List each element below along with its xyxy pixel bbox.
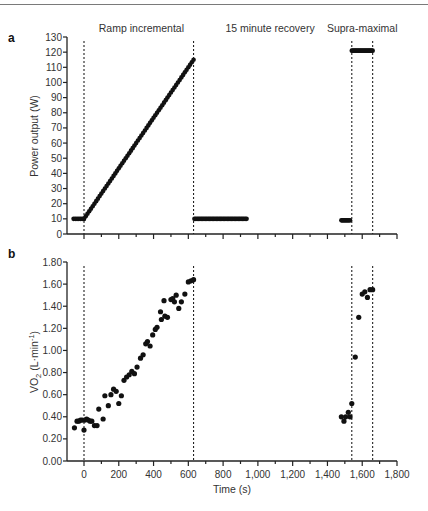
y-tick-label-b: 1.20 xyxy=(43,323,63,334)
x-tick-label-b: 200 xyxy=(110,469,127,480)
y-tick-label-a: 120 xyxy=(45,47,62,58)
data-point-vo2 xyxy=(72,425,77,430)
panel-b-letter: b xyxy=(8,247,15,261)
phase-label-supra: Supra-maximal xyxy=(327,22,398,34)
data-point-vo2 xyxy=(114,389,119,394)
data-point-vo2 xyxy=(81,427,86,432)
data-point-vo2 xyxy=(108,392,113,397)
data-point-vo2 xyxy=(134,364,139,369)
y-tick-label-a: 100 xyxy=(45,77,62,88)
data-point-vo2 xyxy=(102,393,107,398)
data-point-vo2 xyxy=(346,410,351,415)
y-tick-label-b: 1.00 xyxy=(43,345,63,356)
data-point-vo2 xyxy=(94,423,99,428)
y-tick-label-a: 80 xyxy=(51,107,63,118)
data-point-vo2 xyxy=(349,401,354,406)
y-tick-label-b: 0.80 xyxy=(43,367,63,378)
data-point-recovery xyxy=(244,217,249,222)
data-point-vo2 xyxy=(96,406,101,411)
data-point-vo2 xyxy=(182,291,187,296)
data-point-vo2 xyxy=(370,287,375,292)
data-point-vo2 xyxy=(174,293,179,298)
data-point-vo2 xyxy=(150,332,155,337)
y-tick-label-b: 0.40 xyxy=(43,411,63,422)
data-point-vo2 xyxy=(119,393,124,398)
y-tick-label-a: 20 xyxy=(51,198,63,209)
y-tick-label-a: 50 xyxy=(51,153,63,164)
data-point-vo2 xyxy=(116,401,121,406)
y-axis-title-b: VO2 (L·min-1) xyxy=(27,331,43,393)
data-point-vo2 xyxy=(158,309,163,314)
phase-label-ramp: Ramp incremental xyxy=(99,22,184,34)
y-tick-label-a: 10 xyxy=(51,213,63,224)
y-tick-label-b: 1.60 xyxy=(43,279,63,290)
data-point-vo2 xyxy=(347,414,352,419)
y-tick-label-b: 0.00 xyxy=(43,456,63,467)
x-tick-label-b: 1,800 xyxy=(384,469,409,480)
y-title-sup: -1 xyxy=(27,334,36,341)
data-point-vo2 xyxy=(154,325,159,330)
y-title-close: ) xyxy=(28,331,40,335)
y-tick-label-a: 90 xyxy=(51,92,63,103)
x-tick-label-b: 0 xyxy=(81,469,87,480)
y-tick-label-a: 130 xyxy=(45,32,62,43)
data-point-vo2 xyxy=(101,416,106,421)
data-point-vo2 xyxy=(356,315,361,320)
x-tick-label-b: 800 xyxy=(215,469,232,480)
x-tick-label-b: 1,400 xyxy=(315,469,340,480)
data-point-vo2 xyxy=(341,419,346,424)
data-point-vo2 xyxy=(132,371,137,376)
data-point-vo2 xyxy=(353,354,358,359)
data-point-supra-maximal xyxy=(370,48,375,53)
panel-b: 0.000.200.400.600.801.001.201.401.601.80… xyxy=(43,257,410,481)
data-point-vo2 xyxy=(179,299,184,304)
x-tick-label-b: 400 xyxy=(145,469,162,480)
phase-label-recovery: 15 minute recovery xyxy=(225,22,315,34)
y-tick-label-a: 0 xyxy=(56,229,62,240)
panel-a: 0102030405060708090100110120130 xyxy=(45,32,397,240)
data-point-vo2 xyxy=(145,339,150,344)
data-point-vo2 xyxy=(106,403,111,408)
y-axis-title-a: Power output (W) xyxy=(28,95,40,177)
y-tick-label-a: 70 xyxy=(51,122,63,133)
x-tick-label-b: 600 xyxy=(180,469,197,480)
data-point-vo2 xyxy=(141,352,146,357)
x-tick-label-b: 1,200 xyxy=(280,469,305,480)
y-title-main: VO xyxy=(28,378,40,393)
y-tick-label-b: 0.20 xyxy=(43,433,63,444)
y-tick-label-a: 30 xyxy=(51,183,63,194)
data-point-vo2 xyxy=(191,277,196,282)
data-point-ramp xyxy=(191,57,196,62)
data-point-vo2 xyxy=(89,419,94,424)
y-tick-label-b: 0.60 xyxy=(43,389,63,400)
data-point-vo2 xyxy=(161,298,166,303)
data-point-vo2 xyxy=(362,289,367,294)
panel-a-letter: a xyxy=(8,31,15,45)
y-tick-label-a: 40 xyxy=(51,168,63,179)
y-title-rest: (L·min xyxy=(28,341,40,374)
data-point-vo2 xyxy=(147,343,152,348)
x-tick-label-b: 1,600 xyxy=(350,469,375,480)
data-point-pre-supra xyxy=(348,218,353,223)
chart-canvas: a b Ramp incremental 15 minute recovery … xyxy=(0,0,428,511)
y-tick-label-b: 1.40 xyxy=(43,301,63,312)
y-tick-label-b: 1.80 xyxy=(43,257,63,268)
y-tick-label-a: 60 xyxy=(51,138,63,149)
y-tick-label-a: 110 xyxy=(46,62,62,73)
x-axis-title: Time (s) xyxy=(213,483,251,495)
data-point-vo2 xyxy=(365,295,370,300)
x-tick-label-b: 1,000 xyxy=(245,469,270,480)
data-point-vo2 xyxy=(172,299,177,304)
data-point-vo2 xyxy=(165,315,170,320)
data-point-vo2 xyxy=(176,306,181,311)
